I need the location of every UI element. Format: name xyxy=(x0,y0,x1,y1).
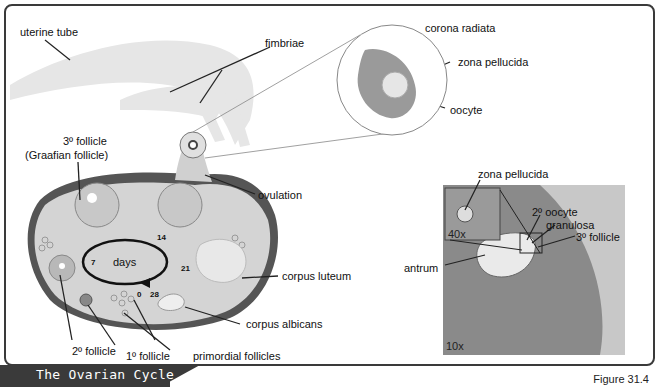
figure-title: The Ovarian Cycle xyxy=(36,367,174,382)
cycle-day-14: 14 xyxy=(157,233,166,242)
label-primordial-follicles: primordial follicles xyxy=(193,350,280,362)
ovarian-cycle-illustration xyxy=(0,0,661,387)
graafian-follicle xyxy=(75,183,119,227)
label-oocyte: oocyte xyxy=(450,104,482,116)
label-ovulation: ovulation xyxy=(258,189,302,201)
magnified-oocyte xyxy=(382,72,408,98)
label-corpus-luteum: corpus luteum xyxy=(282,270,351,282)
corpus-luteum xyxy=(196,239,246,282)
micrograph-label-secondary-oocyte: 2º oocyte xyxy=(532,206,578,218)
cycle-day-7: 7 xyxy=(91,258,95,267)
micrograph-inset-magnification: 40x xyxy=(448,228,466,240)
label-primary-follicle: 1º follicle xyxy=(126,350,170,362)
cycle-day-21: 21 xyxy=(181,264,190,273)
primary-follicle xyxy=(80,294,92,306)
uterine-tube-shape xyxy=(10,41,254,147)
micrograph-label-antrum: antrum xyxy=(404,262,438,274)
label-zona-pellucida: zona pellucida xyxy=(458,56,528,68)
label-secondary-follicle: 2º follicle xyxy=(72,345,116,357)
micrograph-label-granulosa: granulosa xyxy=(546,219,594,231)
label-corpus-albicans: corpus albicans xyxy=(246,318,322,330)
micrograph-magnification: 10x xyxy=(446,340,464,352)
micrograph-label-zona-pellucida: zona pellucida xyxy=(478,168,548,180)
label-graafian-follicle: (Graafian follicle) xyxy=(25,149,108,161)
micrograph-label-tertiary-follicle: 3º follicle xyxy=(576,231,620,243)
label-corona-radiata: corona radiata xyxy=(425,22,495,34)
label-tertiary-follicle: 3º follicle xyxy=(63,135,107,147)
cycle-day-28: 28 xyxy=(150,290,159,299)
cycle-center-label: days xyxy=(113,256,136,268)
label-uterine-tube: uterine tube xyxy=(20,26,78,38)
label-fimbriae: fimbriae xyxy=(265,37,304,49)
figure-number: Figure 31.4 xyxy=(593,373,649,385)
ruptured-follicle xyxy=(158,183,202,227)
cycle-day-0: 0 xyxy=(137,290,141,299)
